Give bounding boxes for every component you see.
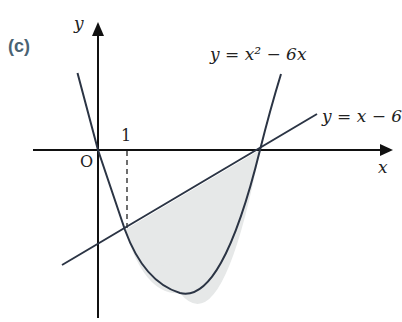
parabola-label: y = x² − 6x — [210, 44, 307, 64]
tick-label-1: 1 — [121, 126, 131, 145]
y-axis-arrow — [92, 22, 104, 36]
line-label: y = x − 6 — [322, 106, 402, 126]
x-axis-arrow — [380, 144, 393, 156]
origin-label: O — [80, 152, 93, 171]
x-axis-label: x — [378, 157, 388, 177]
y-axis-label: y — [74, 13, 84, 33]
